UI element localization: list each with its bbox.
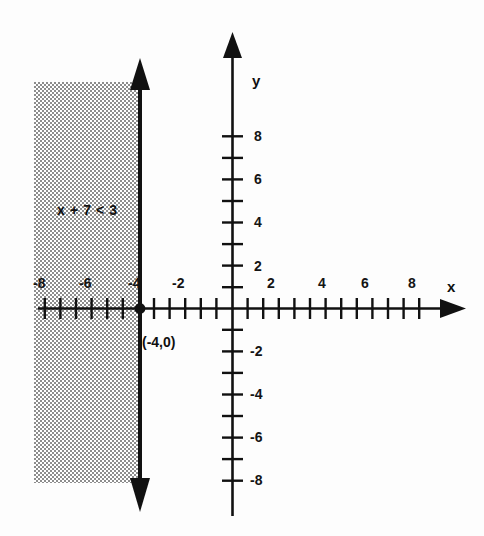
y-tick-label-minus-4: -4 xyxy=(250,386,263,402)
y-tick-label-minus-2: -2 xyxy=(250,343,263,359)
inequality-label: x + 7 < 3 xyxy=(57,202,118,218)
y-tick-label-2: 2 xyxy=(254,258,262,274)
x-tick-label-6: 6 xyxy=(361,275,369,291)
inequality-graph-figure: x y -8 -6 -4 -2 2 4 6 8 2 4 6 8 -2 -4 -6… xyxy=(0,0,484,536)
y-tick-label-minus-6: -6 xyxy=(250,429,263,445)
intercept-point-label: (-4,0) xyxy=(142,334,175,350)
coordinate-plane-canvas: x y -8 -6 -4 -2 2 4 6 8 2 4 6 8 -2 -4 -6… xyxy=(0,0,484,536)
y-axis-arrowhead xyxy=(223,32,242,58)
y-tick-label-8: 8 xyxy=(254,128,262,144)
boundary-line-top-arrowhead xyxy=(130,58,150,90)
y-tick-label-minus-8: -8 xyxy=(250,472,263,488)
x-tick-label-4: 4 xyxy=(318,275,326,291)
x-tick-label-minus-4: -4 xyxy=(128,275,141,291)
x-tick-label-2: 2 xyxy=(267,275,275,291)
y-axis xyxy=(222,32,243,516)
x-tick-label-minus-2: -2 xyxy=(172,275,185,291)
x-axis-arrowhead xyxy=(440,299,466,318)
x-tick-label-minus-8: -8 xyxy=(33,275,46,291)
y-tick-label-4: 4 xyxy=(254,214,262,230)
y-axis-label: y xyxy=(252,72,261,89)
y-tick-label-6: 6 xyxy=(254,171,262,187)
x-axis-label: x xyxy=(447,278,456,295)
x-tick-label-8: 8 xyxy=(408,275,416,291)
x-intercept-point xyxy=(135,303,146,314)
boundary-line-bottom-arrowhead xyxy=(130,478,150,512)
x-tick-label-minus-6: -6 xyxy=(79,275,92,291)
